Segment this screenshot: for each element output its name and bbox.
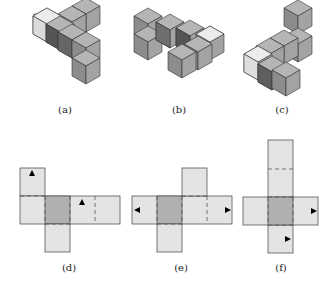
- label-a: (a): [50, 104, 80, 115]
- net-f: [243, 140, 318, 253]
- label-b: (b): [164, 104, 194, 115]
- label-d: (d): [54, 262, 84, 273]
- cube-figure-b: [134, 8, 224, 78]
- cube-figure-c: [244, 0, 312, 96]
- label-f: (f): [266, 262, 296, 273]
- figure-canvas: [0, 0, 336, 281]
- net-d: [20, 168, 120, 252]
- net-e: [132, 168, 232, 252]
- label-e: (e): [166, 262, 196, 273]
- label-c: (c): [267, 104, 297, 115]
- cube-figure-a: [33, 0, 100, 84]
